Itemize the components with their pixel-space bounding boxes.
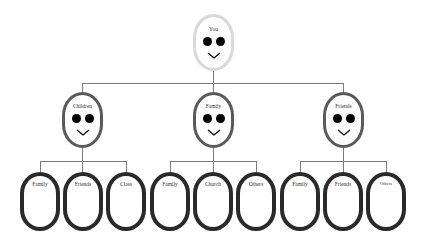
leaf-label: Friends <box>327 181 359 187</box>
leaf-label: Friends <box>67 181 99 187</box>
eye-icon <box>333 114 342 123</box>
smile-icon <box>207 129 221 136</box>
eye-icon <box>216 114 225 123</box>
leaf-children-class: Class <box>106 172 146 231</box>
leaf-friends-others: Others <box>366 172 406 231</box>
leaf-label: Others <box>370 181 402 186</box>
eye-icon <box>216 37 225 46</box>
leaf-family-family: Family <box>150 172 190 231</box>
smile-icon <box>207 52 221 59</box>
leaf-label: Family <box>24 181 56 187</box>
node-friends: Friends <box>323 92 364 148</box>
leaf-children-friends: Friends <box>63 172 103 231</box>
leaf-children-family: Family <box>20 172 60 231</box>
eye-icon <box>85 114 94 123</box>
node-you: You <box>193 14 234 71</box>
connector-children-bar <box>40 161 127 162</box>
eye-icon <box>72 114 81 123</box>
leaf-label: Church <box>197 181 229 187</box>
connector-children-down <box>82 147 83 161</box>
smile-icon <box>337 129 351 136</box>
node-children: Children <box>62 92 103 148</box>
eye-icon <box>203 37 212 46</box>
leaf-family-others: Others <box>236 172 276 231</box>
leaf-family-church: Church <box>193 172 233 231</box>
leaf-label: Family <box>154 181 186 187</box>
eye-icon <box>346 114 355 123</box>
connector-friends-down <box>343 147 344 161</box>
leaf-friends-family: Family <box>280 172 320 231</box>
leaf-friends-friends: Friends <box>323 172 363 231</box>
leaf-label: Class <box>110 181 142 187</box>
connector-root-down <box>213 70 214 83</box>
connector-family-down <box>213 147 214 161</box>
node-label: Children <box>65 103 100 109</box>
node-label: Family <box>196 103 231 109</box>
node-label: You <box>196 26 231 32</box>
node-label: Friends <box>326 103 361 109</box>
eye-icon <box>203 114 212 123</box>
smile-icon <box>76 129 90 136</box>
leaf-label: Family <box>284 181 316 187</box>
node-family: Family <box>193 92 234 148</box>
leaf-label: Others <box>240 181 272 187</box>
